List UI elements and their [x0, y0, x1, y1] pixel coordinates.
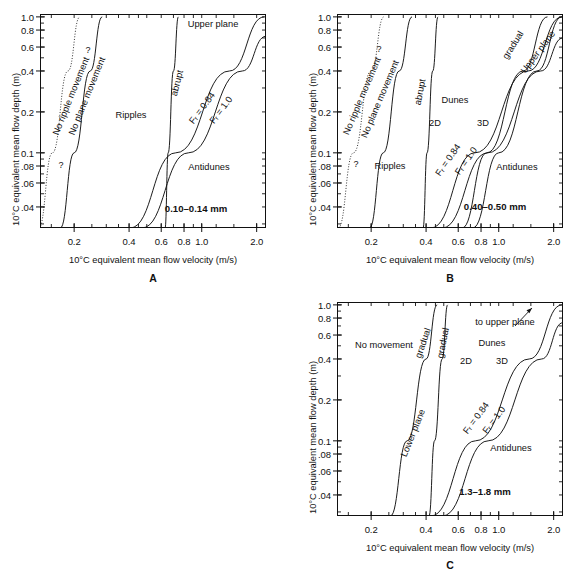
- region-label-2d-c: 2D: [460, 356, 472, 366]
- y-tick-label: 0.8: [303, 313, 331, 324]
- x-tick-label: 0.4: [420, 524, 433, 535]
- boundary-curve: [165, 17, 178, 228]
- region-label-antidunes-a: Antidunes: [188, 162, 229, 172]
- region-label-ripples-a: Ripples: [115, 110, 146, 120]
- x-tick-label: 1.0: [492, 524, 505, 535]
- region-label-antidunes-b: Antidunes: [496, 162, 537, 172]
- query-mark-lower-a: ?: [58, 160, 63, 170]
- x-tick-label: 2.0: [547, 236, 560, 247]
- y-axis-title-c: 10°C equivalent mean flow depth (m): [308, 361, 318, 514]
- panel-c: 1.00.80.60.40.20.1.08.06.040.20.40.60.81…: [280, 288, 568, 571]
- region-label-2d-b: 2D: [429, 118, 441, 128]
- x-tick-label: 0.6: [452, 236, 465, 247]
- x-tick-label: 0.2: [365, 236, 378, 247]
- y-axis-title-a: 10°C equivalent mean flow depth (m): [11, 73, 21, 226]
- x-tick-label: 1.0: [492, 236, 505, 247]
- plot-lines-a: [0, 0, 290, 290]
- panel-label-c: C: [446, 559, 454, 571]
- x-tick-label: 0.6: [452, 524, 465, 535]
- region-label-no-movement-c: No movement: [355, 340, 413, 350]
- region-label-3d-b: 3D: [477, 118, 489, 128]
- region-label-antidunes-c: Antidunes: [490, 443, 531, 453]
- x-tick-label: 2.0: [250, 236, 263, 247]
- grain-size-label-a: 0.10–0.14 mm: [165, 203, 227, 214]
- grain-size-label-b: 0.40–0.50 mm: [464, 201, 526, 212]
- x-tick-label: 0.4: [123, 236, 136, 247]
- boundary-curve: [442, 38, 563, 228]
- y-tick-label: 1.0: [303, 11, 331, 22]
- x-tick-label: 0.8: [178, 236, 191, 247]
- x-tick-label: 0.8: [475, 524, 488, 535]
- boundary-curve: [142, 36, 266, 228]
- region-label-3d-c: 3D: [496, 356, 508, 366]
- panel-label-a: A: [149, 272, 157, 284]
- query-mark-upper-b: ?: [376, 44, 381, 54]
- x-tick-label: 0.2: [68, 236, 81, 247]
- x-tick-label: 0.6: [155, 236, 168, 247]
- query-mark-upper-a: ?: [85, 45, 90, 55]
- panel-b: 1.00.80.60.40.20.1.08.06.040.20.40.60.81…: [280, 0, 568, 290]
- x-axis-title-b: 10°C equivalent mean flow velocity (m/s): [366, 255, 534, 265]
- y-tick-label: 1.0: [6, 11, 34, 22]
- x-tick-label: 0.4: [420, 236, 433, 247]
- region-label-upper-plane-a: Upper plane: [188, 19, 239, 29]
- x-tick-label: 0.8: [475, 236, 488, 247]
- region-label-ripples-b: Ripples: [374, 161, 405, 171]
- region-label-to-upper-plane-c: to upper plane: [475, 317, 534, 327]
- x-tick-label: 0.2: [365, 524, 378, 535]
- region-label-dunes-c: Dunes: [479, 338, 506, 348]
- x-tick-label: 1.0: [195, 236, 208, 247]
- x-tick-label: 2.0: [547, 524, 560, 535]
- x-axis-title-a: 10°C equivalent mean flow velocity (m/s): [69, 255, 237, 265]
- y-tick-label: 0.6: [6, 42, 34, 53]
- grain-size-label-c: 1.3–1.8 mm: [459, 486, 511, 497]
- panel-a: 1.00.80.60.40.20.1.08.06.040.20.40.60.81…: [0, 0, 290, 290]
- y-tick-label: 0.8: [6, 25, 34, 36]
- panel-label-b: B: [446, 272, 454, 284]
- y-axis-title-b: 10°C equivalent mean flow depth (m): [308, 73, 318, 226]
- region-label-dunes-b: Dunes: [442, 95, 469, 105]
- x-axis-title-c: 10°C equivalent mean flow velocity (m/s): [366, 543, 534, 553]
- y-tick-label: 0.8: [303, 25, 331, 36]
- y-tick-label: 0.6: [303, 42, 331, 53]
- y-tick-label: 1.0: [303, 299, 331, 310]
- y-tick-label: 0.6: [303, 330, 331, 341]
- query-mark-lower-b: ?: [353, 159, 358, 169]
